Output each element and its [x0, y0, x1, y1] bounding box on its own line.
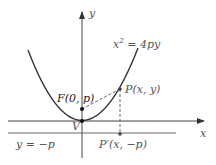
- equation-label: x2 = 4py: [113, 37, 161, 51]
- x-axis-label: x: [200, 127, 207, 140]
- projection-label: P′(x, −p): [98, 138, 147, 151]
- directrix-label: y = −p: [15, 138, 55, 151]
- equation-rhs: = 4py: [124, 38, 161, 51]
- vertex-label: V: [72, 120, 81, 133]
- focus-label: F(0, p): [56, 92, 94, 105]
- parabola-point: [118, 87, 122, 91]
- vertex-point: [80, 119, 84, 123]
- point-label: P(x, y): [124, 83, 160, 96]
- parabola-diagram: y x x2 = 4py F(0, p) P(x, y) V y = −p P′…: [0, 0, 216, 165]
- projection-point: [118, 132, 122, 136]
- y-axis-label: y: [88, 7, 96, 20]
- focus-point: [80, 107, 84, 111]
